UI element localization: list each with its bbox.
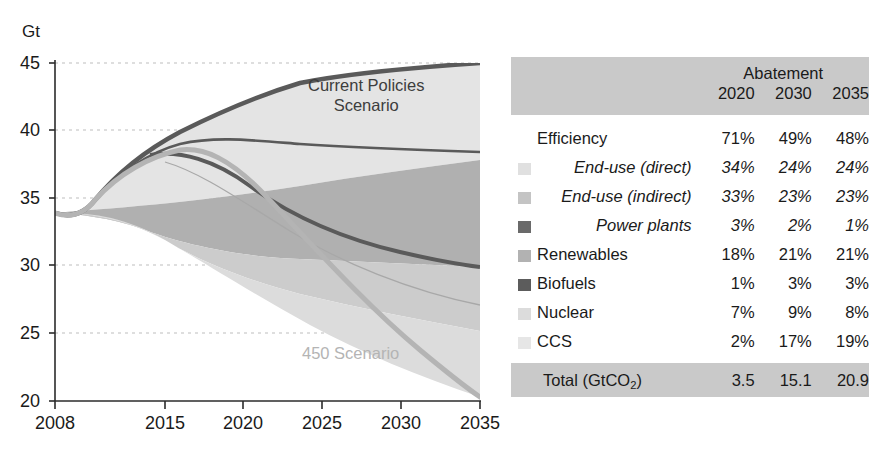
total-value-2030: 15.1 — [755, 363, 812, 397]
row-label: Nuclear — [537, 298, 697, 327]
table-header-bottom-band — [511, 103, 869, 115]
row-value-2020: 33% — [697, 182, 754, 211]
gap-before-total-fill — [511, 356, 869, 363]
x-tick-2020: 2020 — [213, 413, 273, 434]
row-value-2030: 9% — [755, 298, 812, 327]
swatch-nuclear — [518, 308, 531, 320]
row-label: End-use (indirect) — [537, 182, 697, 211]
row-value-2035: 3% — [812, 269, 869, 298]
emissions-chart-panel: Gt — [0, 0, 500, 451]
row-label: Power plants — [537, 211, 697, 240]
y-tick-45: 45 — [6, 53, 40, 74]
row-label: Renewables — [537, 240, 697, 269]
legend-swatch-cell — [511, 298, 537, 327]
row-value-2035: 23% — [812, 182, 869, 211]
total-swatch-spacer — [511, 363, 537, 397]
row-value-2035: 19% — [812, 327, 869, 356]
total-label-prefix: Total (GtCO — [543, 371, 630, 389]
header-year-2030: 2030 — [755, 84, 812, 103]
row-label: Efficiency — [537, 124, 697, 153]
y-tick-35: 35 — [6, 188, 40, 209]
row-value-2035: 21% — [812, 240, 869, 269]
table-row: Efficiency71%49%48% — [511, 124, 869, 153]
row-value-2030: 2% — [755, 211, 812, 240]
swatch-renewables — [518, 250, 531, 262]
row-value-2020: 34% — [697, 153, 754, 182]
swatch-biofuels — [518, 279, 531, 291]
legend-swatch-cell — [511, 211, 537, 240]
row-value-2035: 8% — [812, 298, 869, 327]
table-header-years-row: 2020 2030 2035 — [511, 84, 869, 103]
x-tick-2015: 2015 — [135, 413, 195, 434]
abatement-table-panel: Abatement 2020 2030 2035 Efficiency71%49… — [511, 57, 869, 399]
row-value-2030: 17% — [755, 327, 812, 356]
chart-plot-area — [0, 0, 500, 451]
annotation-current-policies-scenario: Current Policies Scenario — [308, 75, 424, 115]
legend-swatch-cell — [511, 327, 537, 356]
x-tick-2030: 2030 — [371, 413, 431, 434]
legend-swatch-cell — [511, 153, 537, 182]
y-tick-30: 30 — [6, 255, 40, 276]
row-label: CCS — [537, 327, 697, 356]
row-value-2020: 3% — [697, 211, 754, 240]
x-tick-2008: 2008 — [25, 413, 85, 434]
row-value-2030: 23% — [755, 182, 812, 211]
header-years-label-spacer — [537, 84, 697, 103]
total-value-2035: 20.9 — [812, 363, 869, 397]
y-tick-25: 25 — [6, 323, 40, 344]
header-label-spacer — [537, 57, 697, 84]
header-gap-fill — [511, 115, 869, 124]
table-row-total: Total (GtCO2) 3.5 15.1 20.9 — [511, 363, 869, 397]
row-value-2030: 49% — [755, 124, 812, 153]
table-row: CCS2%17%19% — [511, 327, 869, 356]
table-row: End-use (direct)34%24%24% — [511, 153, 869, 182]
abatement-table: Abatement 2020 2030 2035 Efficiency71%49… — [511, 57, 869, 397]
header-year-2020: 2020 — [697, 84, 754, 103]
annotation-450-scenario: 450 Scenario — [302, 343, 399, 363]
table-row: Power plants3%2%1% — [511, 211, 869, 240]
legend-swatch-cell — [511, 269, 537, 298]
table-gap-before-total — [511, 356, 869, 363]
swatch-ccs — [518, 337, 531, 349]
row-value-2030: 3% — [755, 269, 812, 298]
swatch-end-use-direct — [518, 163, 531, 175]
total-label-subscript: 2 — [630, 379, 636, 391]
row-value-2020: 71% — [697, 124, 754, 153]
header-years-swatch-spacer — [511, 84, 537, 103]
legend-swatch-cell — [511, 124, 537, 153]
y-tick-20: 20 — [6, 391, 40, 412]
table-row: Nuclear7%9%8% — [511, 298, 869, 327]
table-row: Renewables18%21%21% — [511, 240, 869, 269]
row-value-2020: 1% — [697, 269, 754, 298]
y-tick-40: 40 — [6, 120, 40, 141]
row-value-2030: 21% — [755, 240, 812, 269]
header-bottom-fill — [511, 103, 869, 115]
row-value-2035: 48% — [812, 124, 869, 153]
row-value-2020: 7% — [697, 298, 754, 327]
row-value-2035: 24% — [812, 153, 869, 182]
table-row: Biofuels1%3%3% — [511, 269, 869, 298]
x-tick-2025: 2025 — [292, 413, 352, 434]
legend-swatch-cell — [511, 240, 537, 269]
row-label: Biofuels — [537, 269, 697, 298]
x-tick-2035: 2035 — [450, 413, 510, 434]
total-value-2020: 3.5 — [697, 363, 754, 397]
legend-swatch-cell — [511, 182, 537, 211]
swatch-end-use-indirect — [518, 192, 531, 204]
table-header-gap — [511, 115, 869, 124]
total-label: Total (GtCO2) — [537, 363, 697, 397]
row-label: End-use (direct) — [537, 153, 697, 182]
table-row: End-use (indirect)33%23%23% — [511, 182, 869, 211]
header-swatch-spacer — [511, 57, 537, 84]
table-header-abatement-row: Abatement — [511, 57, 869, 84]
header-year-2035: 2035 — [812, 84, 869, 103]
row-value-2020: 2% — [697, 327, 754, 356]
row-value-2020: 18% — [697, 240, 754, 269]
row-value-2035: 1% — [812, 211, 869, 240]
swatch-power-plants — [518, 221, 531, 233]
header-abatement-title: Abatement — [697, 57, 869, 84]
total-label-suffix: ) — [636, 371, 642, 389]
row-value-2030: 24% — [755, 153, 812, 182]
